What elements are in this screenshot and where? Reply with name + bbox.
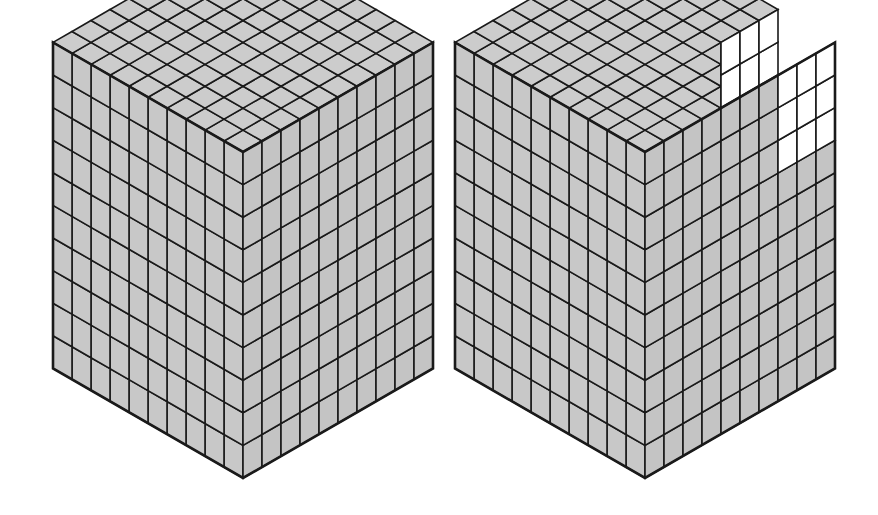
isometric-cubes-figure xyxy=(0,0,878,515)
figure-root: Two isometric unit-cube blocks, one comp… xyxy=(0,0,878,515)
cube-right-group xyxy=(455,0,835,478)
cube-left-group xyxy=(53,0,433,478)
